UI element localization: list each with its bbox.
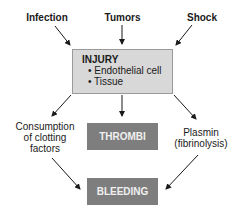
bleeding-box: BLEEDING	[87, 178, 158, 205]
cause-tumors: Tumors	[100, 12, 145, 23]
consumption-line-1: Consumption	[10, 121, 80, 132]
consumption-label: Consumption of clotting factors	[10, 121, 80, 154]
arrow-injury-to-plasmin	[174, 95, 196, 119]
cause-infection: Infection	[22, 12, 72, 23]
cause-shock: Shock	[182, 12, 222, 23]
injury-box: INJURY • Endothelial cell • Tissue	[72, 49, 173, 94]
thrombi-box: THROMBI	[87, 123, 158, 150]
arrow-plasmin-to-bleeding	[166, 155, 198, 189]
injury-item-endothelial: • Endothelial cell	[82, 65, 172, 76]
dic-pathway-diagram: Infection Tumors Shock INJURY • Endothel…	[0, 0, 239, 217]
injury-item-tissue: • Tissue	[82, 76, 172, 87]
consumption-line-2: of clotting	[10, 132, 80, 143]
consumption-line-3: factors	[10, 143, 80, 154]
arrow-injury-to-consumption	[52, 95, 71, 116]
arrow-shock-to-injury	[176, 25, 192, 45]
plasmin-line-1: Plasmin	[168, 127, 234, 138]
injury-title: INJURY	[82, 54, 172, 65]
plasmin-line-2: (fibrinolysis)	[168, 138, 234, 149]
plasmin-label: Plasmin (fibrinolysis)	[168, 127, 234, 149]
arrow-consumption-to-bleeding	[52, 158, 80, 189]
arrow-infection-to-injury	[55, 26, 70, 45]
